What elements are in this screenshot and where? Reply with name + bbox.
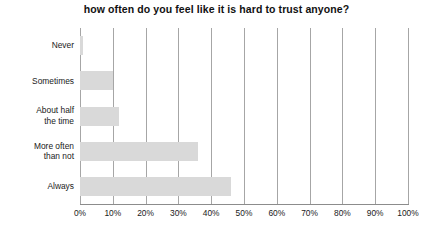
y-axis-label: About halfthe time: [0, 105, 74, 126]
y-axis-label-line: Never: [0, 40, 74, 51]
y-axis-label: More oftenthan not: [0, 141, 74, 162]
gridline-90pct: [375, 28, 376, 204]
bar: [80, 107, 119, 126]
gridline-70pct: [310, 28, 311, 204]
x-axis-tick-label: 10%: [104, 208, 121, 218]
y-axis-label: Never: [0, 40, 74, 51]
x-axis-tick-label: 100%: [397, 208, 418, 218]
y-axis-label: Always: [0, 181, 74, 192]
y-axis-label-line: than not: [0, 151, 74, 162]
plot-area: [80, 28, 408, 204]
y-axis-label-line: About half: [0, 105, 74, 116]
chart-title: how often do you feel like it is hard to…: [0, 3, 433, 15]
y-axis-label-line: Always: [0, 181, 74, 192]
x-axis-tick-label: 60%: [268, 208, 285, 218]
gridline-80pct: [342, 28, 343, 204]
bar: [80, 71, 113, 90]
y-axis-label-line: Sometimes: [0, 76, 74, 87]
y-axis-label-line: the time: [0, 116, 74, 127]
y-axis-label: Sometimes: [0, 76, 74, 87]
x-axis-line: [80, 204, 409, 205]
bar: [80, 177, 231, 196]
gridline-60pct: [277, 28, 278, 204]
x-axis-tick-label: 90%: [367, 208, 384, 218]
x-axis-tick-label: 20%: [137, 208, 154, 218]
bar: [80, 36, 83, 55]
x-axis-tick-label: 40%: [203, 208, 220, 218]
gridline-100pct: [408, 28, 409, 204]
bar: [80, 142, 198, 161]
x-axis-tick-label: 80%: [334, 208, 351, 218]
y-axis-label-line: More often: [0, 141, 74, 152]
gridline-50pct: [244, 28, 245, 204]
x-axis-tick-labels: 0%10%20%30%40%50%60%70%80%90%100%: [0, 208, 433, 228]
x-axis-tick-label: 70%: [301, 208, 318, 218]
y-axis-category-labels: NeverSometimesAbout halfthe timeMore oft…: [0, 28, 74, 204]
x-axis-tick-label: 0%: [74, 208, 86, 218]
x-axis-tick-label: 50%: [236, 208, 253, 218]
bar-chart: how often do you feel like it is hard to…: [0, 0, 433, 241]
x-axis-tick-label: 30%: [170, 208, 187, 218]
